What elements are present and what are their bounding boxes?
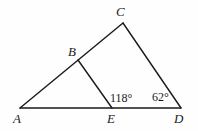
vertex-label-D: D xyxy=(174,112,183,125)
geometry-canvas xyxy=(0,0,198,131)
segment-BE xyxy=(78,60,112,108)
geometry-figure: A B C D E 118° 62° xyxy=(0,0,198,131)
vertex-label-A: A xyxy=(13,112,21,125)
segment-AC xyxy=(20,23,123,108)
angle-label-at-E: 118° xyxy=(110,92,132,104)
vertex-label-C: C xyxy=(116,5,125,18)
angle-label-at-D: 62° xyxy=(152,91,169,103)
vertex-label-E: E xyxy=(107,112,115,125)
vertex-label-B: B xyxy=(68,45,76,58)
